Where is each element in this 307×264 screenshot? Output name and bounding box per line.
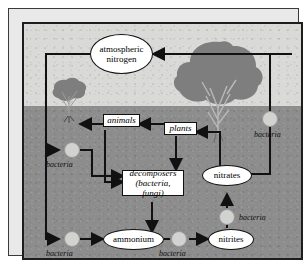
bacteria-dot-bottom-middle: [171, 231, 187, 247]
flow-arrow-layer: [24, 24, 303, 260]
decomposers-label-line2: (bacteria, fungi): [127, 178, 179, 198]
node-plants[interactable]: plants: [164, 122, 197, 135]
bacteria-dot-right-upper: [262, 111, 278, 127]
nitrites-label: nitrites: [219, 235, 244, 244]
node-decomposers[interactable]: decomposers (bacteria, fungi): [122, 170, 184, 196]
bacteria-label-left-lower: bacteria: [46, 249, 73, 258]
bacteria-dot-left-lower: [64, 231, 80, 247]
bacteria-label-left-upper: bacteria: [46, 160, 73, 169]
plants-label: plants: [169, 124, 191, 133]
ammonium-label: ammonium: [113, 235, 154, 244]
line-atmospheric-left-spine: [46, 54, 90, 150]
node-atmospheric-nitrogen[interactable]: atmospheric nitrogen: [90, 34, 153, 74]
atmospheric-nitrogen-label-line2: nitrogen: [107, 54, 137, 64]
bacteria-label-bottom-middle: bacteria: [159, 249, 186, 258]
bacteria-label-right-middle: bacteria: [239, 213, 266, 222]
bacteria-dot-left-upper: [64, 142, 80, 158]
node-nitrates[interactable]: nitrates: [202, 165, 252, 186]
figure-outer-frame: bacteria bacteria bacteria bacteria bact…: [8, 8, 299, 256]
atmospheric-nitrogen-label-line1: atmospheric: [100, 44, 144, 54]
node-animals[interactable]: animals: [103, 114, 140, 127]
arrow-nitrates-to-plants: [196, 132, 220, 167]
node-ammonium[interactable]: ammonium: [103, 229, 164, 250]
decomposers-label-line1: decomposers: [130, 168, 177, 178]
bacteria-dot-right-middle: [219, 209, 235, 225]
line-atmospheric-right-spine: [235, 54, 270, 112]
figure-inner-frame: bacteria bacteria bacteria bacteria bact…: [22, 22, 303, 260]
node-nitrites[interactable]: nitrites: [208, 229, 254, 250]
nitrates-label: nitrates: [214, 171, 241, 180]
nitrogen-cycle-figure: bacteria bacteria bacteria bacteria bact…: [0, 0, 307, 264]
bacteria-label-right-upper: bacteria: [254, 130, 281, 139]
animals-label: animals: [107, 116, 136, 125]
arrow-animals-to-decomposers: [105, 130, 123, 182]
arrow-bacteria-left-upper-to-decomposers: [80, 150, 123, 176]
